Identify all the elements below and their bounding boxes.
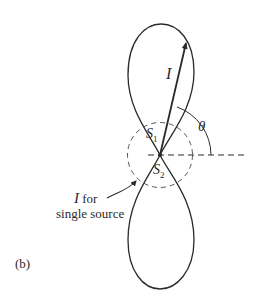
theta-label: θ	[198, 119, 205, 134]
intensity-label: I	[166, 66, 171, 82]
source-2-symbol: S	[153, 162, 160, 177]
source-1-label: S1	[146, 127, 158, 144]
panel-label: (b)	[15, 257, 30, 270]
source-2-subscript: 2	[160, 170, 165, 180]
single-source-label-line2: single source	[56, 207, 124, 220]
upper-lobe	[128, 24, 194, 155]
theta-arc	[177, 107, 211, 155]
diagram-canvas	[0, 0, 256, 301]
single-source-pointer-arrow	[107, 181, 136, 198]
source-2-label: S2	[153, 163, 165, 180]
single-source-for-text: for	[79, 191, 97, 206]
source-center-point	[158, 153, 162, 157]
source-1-symbol: S	[146, 126, 153, 141]
source-1-subscript: 1	[153, 134, 158, 144]
two-source-radiation-pattern: I θ S1 S2 I for single source (b)	[0, 0, 256, 301]
single-source-label-line1: I for	[74, 191, 97, 206]
intensity-arrow	[160, 43, 186, 155]
